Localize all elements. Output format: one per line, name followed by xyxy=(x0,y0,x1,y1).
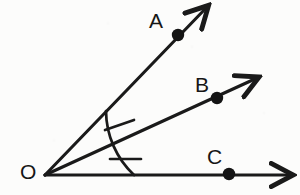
point-label-c: C xyxy=(207,146,222,167)
tick-angle-aob xyxy=(105,120,134,130)
point-a-dot xyxy=(172,29,184,41)
vertex-label-o: O xyxy=(20,161,36,182)
point-c-dot xyxy=(223,168,235,180)
geometry-figure: O A B C xyxy=(0,0,300,195)
point-label-a: A xyxy=(149,10,163,31)
ray-ob xyxy=(45,78,257,175)
point-b-dot xyxy=(211,92,223,104)
point-label-b: B xyxy=(195,74,209,95)
